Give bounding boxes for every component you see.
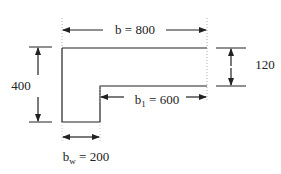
label-overhang-width: b1 = 600 — [135, 92, 179, 109]
label-flange-width: b = 800 — [115, 22, 155, 37]
diagram-svg: b = 800 400 120 b1 = 600 bw = 200 — [0, 0, 281, 174]
label-web-width: bw = 200 — [63, 149, 109, 166]
label-flange-depth: 120 — [255, 57, 275, 72]
t-beam-diagram: b = 800 400 120 b1 = 600 bw = 200 — [0, 0, 281, 174]
section-outline — [62, 48, 207, 122]
label-total-depth: 400 — [11, 78, 31, 93]
